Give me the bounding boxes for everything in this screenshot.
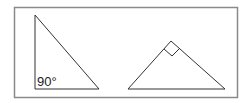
right-angle-marker xyxy=(164,48,180,56)
left-triangle: 90° xyxy=(35,15,99,89)
diagram-canvas: 90° xyxy=(0,0,247,103)
right-triangle xyxy=(128,41,225,89)
angle-label: 90° xyxy=(37,74,57,89)
